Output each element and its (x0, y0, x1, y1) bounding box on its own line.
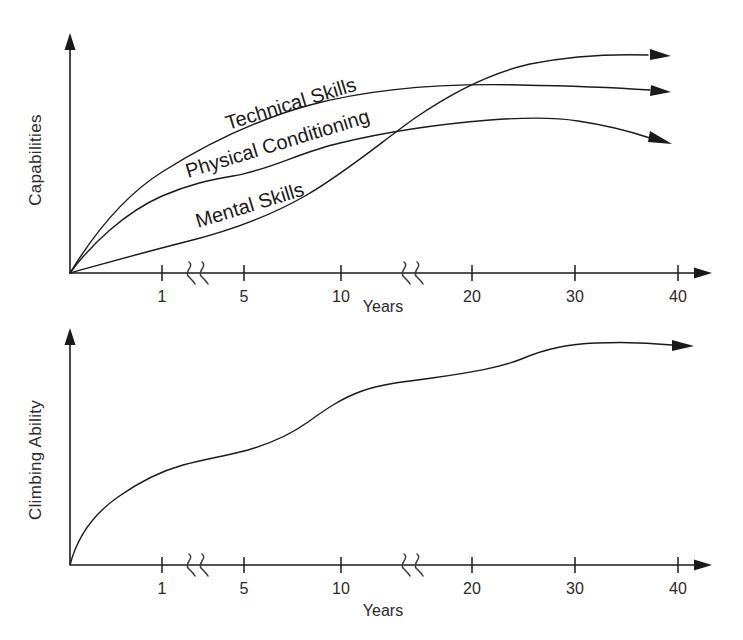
y-axis-title-climbing-ability: Climbing Ability (26, 400, 45, 520)
mental-skills-arrowhead (650, 49, 671, 60)
series-physical-conditioning (70, 118, 672, 273)
technical-skills-arrowhead (650, 85, 671, 96)
tick-label-30: 30 (566, 288, 584, 305)
tick-label-1: 1 (158, 580, 167, 597)
tick-label-20: 20 (463, 580, 481, 597)
tick-label-5: 5 (240, 580, 249, 597)
figure-root: 1 5 10 20 30 40 Years Capabilities Techn… (0, 0, 743, 640)
physical-conditioning-arrowhead (648, 131, 672, 144)
x-axis-tick-labels-capabilities: 1 5 10 20 30 40 (158, 288, 687, 305)
x-axis-title-years: Years (363, 602, 403, 619)
y-axis-arrowhead (65, 328, 76, 345)
x-axis-tick-labels-climbing-ability: 1 5 10 20 30 40 (158, 580, 687, 597)
x-axis-arrowhead (694, 560, 712, 571)
tick-label-40: 40 (669, 288, 687, 305)
tick-label-40: 40 (669, 580, 687, 597)
x-axis-climbing-ability (70, 560, 712, 571)
tick-label-20: 20 (463, 288, 481, 305)
y-axis-arrowhead (65, 33, 76, 50)
tick-label-10: 10 (332, 580, 350, 597)
series-mental-skills (70, 49, 671, 273)
climbing-ability-arrowhead (672, 340, 694, 351)
series-technical-skills (70, 85, 671, 273)
x-axis-capabilities (70, 268, 712, 279)
tick-label-1: 1 (158, 288, 167, 305)
tick-label-10: 10 (332, 288, 350, 305)
chart-capabilities: 1 5 10 20 30 40 Years Capabilities Techn… (0, 0, 743, 320)
x-axis-title-years: Years (363, 298, 403, 315)
x-axis-arrowhead (694, 268, 712, 279)
y-axis-capabilities (65, 33, 76, 273)
chart-climbing-ability: 1 5 10 20 30 40 Years Climbing Ability (0, 320, 743, 640)
series-climbing-ability (70, 340, 694, 565)
y-axis-climbing-ability (65, 328, 76, 565)
y-axis-title-capabilities: Capabilities (26, 114, 45, 205)
tick-label-30: 30 (566, 580, 584, 597)
tick-label-5: 5 (240, 288, 249, 305)
